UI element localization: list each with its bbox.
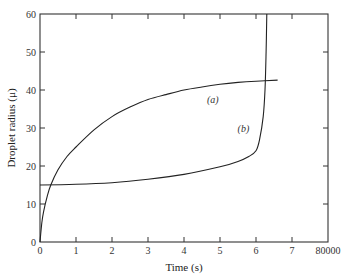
x-tick-label: 80000	[316, 245, 341, 256]
y-tick-label: 30	[26, 123, 36, 134]
x-tick-label: 5	[218, 245, 223, 256]
curve-b-label: (b)	[238, 123, 250, 135]
x-tick-label: 6	[254, 245, 259, 256]
x-tick-label: 7	[290, 245, 295, 256]
plot-border	[40, 14, 328, 242]
curve-a-label: (a)	[207, 94, 219, 106]
y-tick-label: 60	[26, 9, 36, 20]
y-axis-label: Droplet radius (μ)	[5, 88, 18, 168]
x-axis-ticks: 0123456780000	[38, 14, 341, 256]
y-axis-ticks: 0102030405060	[26, 9, 328, 248]
x-tick-label: 3	[146, 245, 151, 256]
curve-a	[40, 80, 278, 242]
y-tick-label: 20	[26, 161, 36, 172]
x-tick-label: 0	[38, 245, 43, 256]
y-tick-label: 50	[26, 47, 36, 58]
x-axis-label: Time (s)	[165, 261, 203, 274]
y-tick-label: 0	[31, 237, 36, 248]
series-labels: (a)(b)	[207, 94, 250, 135]
y-tick-label: 40	[26, 85, 36, 96]
y-tick-label: 10	[26, 199, 36, 210]
plot-frame	[40, 14, 328, 242]
x-tick-label: 2	[110, 245, 115, 256]
x-tick-label: 1	[74, 245, 79, 256]
droplet-radius-chart: 0123456780000 0102030405060 (a)(b) Time …	[0, 0, 357, 279]
x-tick-label: 4	[182, 245, 187, 256]
curve-b	[40, 14, 267, 185]
